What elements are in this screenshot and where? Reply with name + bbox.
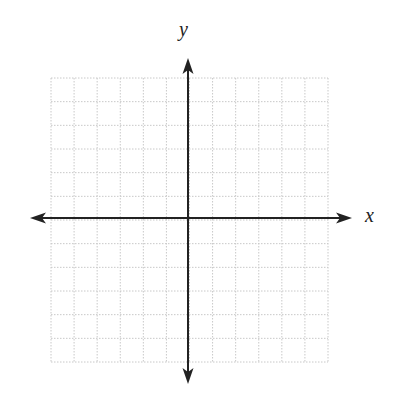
axes <box>30 58 352 384</box>
y-axis-label: y <box>179 18 188 41</box>
grid-lines <box>51 78 328 362</box>
coordinate-plane <box>0 0 400 396</box>
x-axis-label: x <box>365 204 374 227</box>
